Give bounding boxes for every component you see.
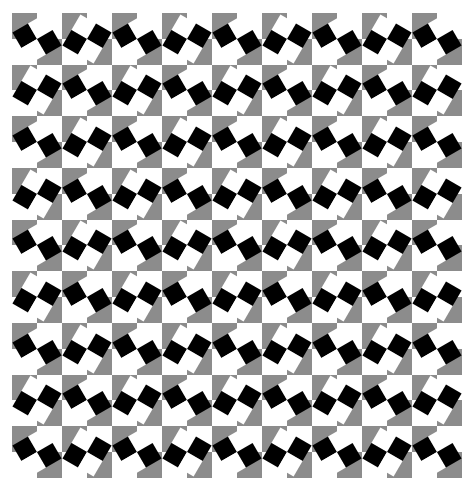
tile — [62, 168, 112, 220]
tile — [12, 375, 62, 427]
tile — [362, 65, 412, 117]
tile — [312, 168, 362, 220]
tile — [112, 271, 162, 323]
tile — [162, 426, 212, 478]
tile — [212, 13, 262, 65]
tile — [162, 220, 212, 272]
tile — [162, 375, 212, 427]
tile — [212, 168, 262, 220]
tile — [412, 168, 462, 220]
tile — [412, 116, 462, 168]
tile — [212, 375, 262, 427]
tile — [262, 116, 312, 168]
tile — [162, 13, 212, 65]
tile — [412, 13, 462, 65]
tile — [412, 65, 462, 117]
tile — [212, 271, 262, 323]
tile — [312, 220, 362, 272]
tile — [262, 220, 312, 272]
tile — [412, 271, 462, 323]
tile — [212, 323, 262, 375]
tile — [112, 116, 162, 168]
tile — [162, 271, 212, 323]
tile — [262, 375, 312, 427]
tile — [362, 168, 412, 220]
tile — [412, 426, 462, 478]
tile — [312, 65, 362, 117]
tile — [12, 323, 62, 375]
tile — [412, 220, 462, 272]
tile — [112, 65, 162, 117]
tile — [112, 168, 162, 220]
tile — [212, 426, 262, 478]
tile — [362, 426, 412, 478]
tile — [312, 116, 362, 168]
tile — [312, 426, 362, 478]
tile — [262, 271, 312, 323]
tile — [62, 375, 112, 427]
tile — [212, 220, 262, 272]
tile — [112, 323, 162, 375]
tile — [162, 323, 212, 375]
illusion-pattern — [12, 13, 462, 478]
tile — [12, 13, 62, 65]
tile — [362, 220, 412, 272]
tile — [162, 168, 212, 220]
tile — [362, 116, 412, 168]
tile — [112, 426, 162, 478]
tile — [262, 13, 312, 65]
tile — [262, 426, 312, 478]
tile — [212, 65, 262, 117]
tile — [62, 271, 112, 323]
tile — [62, 323, 112, 375]
tile — [312, 323, 362, 375]
tile — [412, 323, 462, 375]
tile — [112, 13, 162, 65]
tile — [362, 13, 412, 65]
tile — [162, 65, 212, 117]
tile — [62, 426, 112, 478]
tile — [262, 168, 312, 220]
tile — [12, 168, 62, 220]
tile — [362, 271, 412, 323]
tile — [12, 426, 62, 478]
tile — [312, 375, 362, 427]
tile — [62, 116, 112, 168]
tile — [362, 323, 412, 375]
tile — [212, 116, 262, 168]
tile — [262, 65, 312, 117]
tile — [62, 220, 112, 272]
tile — [12, 116, 62, 168]
tile — [412, 375, 462, 427]
tile — [312, 271, 362, 323]
tile — [162, 116, 212, 168]
tile — [362, 375, 412, 427]
tile — [62, 65, 112, 117]
tile — [112, 220, 162, 272]
tile — [12, 220, 62, 272]
tile — [112, 375, 162, 427]
tile — [312, 13, 362, 65]
tile — [12, 271, 62, 323]
tile — [262, 323, 312, 375]
tile — [62, 13, 112, 65]
tile — [12, 65, 62, 117]
